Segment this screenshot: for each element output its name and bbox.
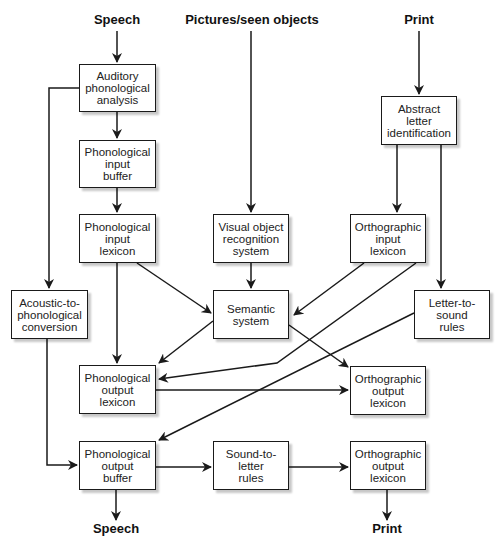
- node-phonological-output-lexicon: Phonological output lexicon: [79, 365, 156, 414]
- node-sound-to-letter-rules: Sound-to- letter rules: [213, 441, 289, 490]
- node-label: Phonological output buffer: [85, 448, 151, 484]
- node-label: Abstract letter identification: [387, 103, 451, 139]
- node-phonological-output-buffer: Phonological output buffer: [79, 441, 156, 490]
- node-abstract-letter-identification: Abstract letter identification: [381, 96, 457, 145]
- node-semantic-system: Semantic system: [213, 290, 289, 339]
- node-label: Auditory phonological analysis: [85, 70, 150, 106]
- node-label: Visual object recognition system: [219, 221, 284, 257]
- node-label: Acoustic-to- phonological conversion: [17, 297, 82, 333]
- node-phonological-input-lexicon: Phonological input lexicon: [79, 214, 156, 263]
- input-pictures-label: Pictures/seen objects: [185, 12, 319, 27]
- node-label: Orthographic output lexicon: [355, 448, 421, 484]
- node-label: Orthographic input lexicon: [355, 221, 421, 257]
- input-speech-label: Speech: [94, 12, 140, 27]
- node-orthographic-output-lexicon-2: Orthographic output lexicon: [350, 441, 426, 490]
- node-label: Semantic system: [227, 303, 275, 327]
- node-phonological-input-buffer: Phonological input buffer: [79, 140, 156, 188]
- node-orthographic-input-lexicon: Orthographic input lexicon: [350, 214, 426, 263]
- node-auditory-phonological-analysis: Auditory phonological analysis: [79, 64, 156, 112]
- node-label: Letter-to- sound rules: [429, 297, 476, 333]
- node-label: Sound-to- letter rules: [226, 448, 277, 484]
- node-label: Phonological input lexicon: [85, 221, 151, 257]
- node-label: Phonological input buffer: [85, 146, 151, 182]
- node-orthographic-output-lexicon-1: Orthographic output lexicon: [350, 366, 426, 415]
- node-acoustic-to-phonological-conversion: Acoustic-to- phonological conversion: [11, 290, 88, 339]
- output-print-label: Print: [372, 521, 402, 536]
- input-print-label: Print: [404, 12, 434, 27]
- node-label: Orthographic output lexicon: [355, 373, 421, 409]
- output-speech-label: Speech: [93, 521, 139, 536]
- node-letter-to-sound-rules: Letter-to- sound rules: [414, 290, 490, 339]
- node-visual-object-recognition-system: Visual object recognition system: [213, 214, 289, 263]
- node-label: Phonological output lexicon: [85, 372, 151, 408]
